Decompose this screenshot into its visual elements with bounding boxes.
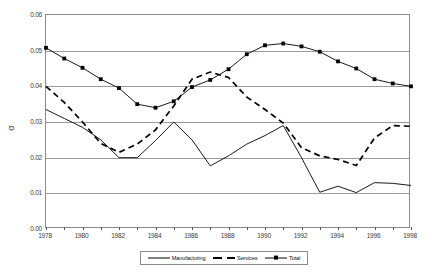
series-line-total	[46, 44, 411, 108]
series-line-services	[46, 72, 411, 165]
y-tick-label: 0.04	[14, 82, 42, 89]
data-point-marker	[117, 86, 121, 90]
y-tick-label: 0.05	[14, 46, 42, 53]
data-point-marker	[154, 106, 158, 110]
x-tick-label: 1984	[140, 232, 170, 239]
x-tick-mark	[411, 227, 412, 230]
data-point-marker	[409, 84, 413, 88]
data-point-marker	[135, 102, 139, 106]
data-point-marker	[208, 78, 212, 82]
x-tick-label: 1990	[249, 232, 279, 239]
plot-area	[45, 14, 410, 228]
chart-figure: σ 0.000.010.020.030.040.050.06 197819801…	[0, 0, 435, 276]
series-line-manufacturing	[46, 110, 411, 193]
data-point-marker	[44, 46, 48, 50]
data-point-marker	[190, 85, 194, 89]
x-tick-label: 1998	[395, 232, 425, 239]
y-tick-label: 0.00	[14, 225, 42, 232]
data-point-marker	[227, 67, 231, 71]
x-tick-label: 1992	[286, 232, 316, 239]
data-point-marker	[172, 99, 176, 103]
x-tick-label: 1978	[30, 232, 60, 239]
y-tick-label: 0.03	[14, 118, 42, 125]
data-point-marker	[81, 66, 85, 70]
data-point-marker	[300, 44, 304, 48]
x-tick-label: 1982	[103, 232, 133, 239]
data-point-marker	[263, 43, 267, 47]
legend-label: Total	[289, 255, 300, 261]
legend-item-services: Services	[213, 254, 257, 262]
legend-item-total: Total	[265, 254, 300, 262]
y-tick-label: 0.02	[14, 153, 42, 160]
legend-swatch-services	[213, 254, 235, 262]
x-tick-label: 1988	[213, 232, 243, 239]
data-point-marker	[336, 59, 340, 63]
y-tick-label: 0.01	[14, 189, 42, 196]
legend-swatch-total	[265, 254, 287, 262]
legend-label: Services	[237, 255, 257, 261]
x-tick-label: 1996	[359, 232, 389, 239]
legend-item-manufacturing: Manufacturing	[148, 254, 206, 262]
data-point-marker	[318, 50, 322, 54]
data-point-marker	[62, 57, 66, 61]
data-point-marker	[354, 67, 358, 71]
data-point-marker	[99, 77, 103, 81]
x-tick-label: 1994	[322, 232, 352, 239]
x-tick-label: 1980	[67, 232, 97, 239]
data-point-marker	[391, 82, 395, 86]
data-point-marker	[281, 42, 285, 46]
data-point-marker	[373, 77, 377, 81]
series-lines	[46, 15, 411, 229]
x-tick-label: 1986	[176, 232, 206, 239]
legend-swatch-manufacturing	[148, 254, 170, 262]
data-point-marker	[245, 52, 249, 56]
chart-legend: ManufacturingServicesTotal	[140, 251, 308, 265]
y-tick-label: 0.06	[14, 11, 42, 18]
legend-label: Manufacturing	[172, 255, 206, 261]
